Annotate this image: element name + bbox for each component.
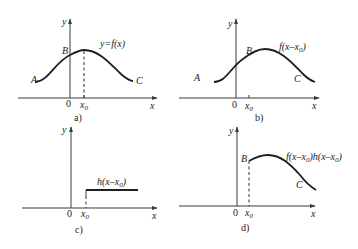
y-axis-label: y: [61, 124, 67, 135]
point-a-label: A: [30, 74, 38, 85]
point-a-label: A: [193, 72, 201, 83]
point-b-label: B: [241, 153, 247, 164]
panel-c: y x 0 x0 h(x–x0) c): [22, 124, 157, 236]
curve-label: h(x–x0): [97, 176, 127, 189]
x-axis-label: x: [149, 100, 155, 111]
figure-canvas: y x 0 x0 A B C y=f(x) a) y x 0 x0 A B C …: [0, 0, 358, 249]
y-axis-label: y: [227, 18, 233, 29]
curve-label: f(x–x0): [279, 41, 307, 54]
x0-label: x0: [244, 100, 253, 113]
y-axis-label: y: [228, 125, 234, 136]
origin-label: 0: [232, 99, 237, 110]
panel-caption: a): [74, 112, 82, 124]
point-c-label: C: [296, 179, 303, 190]
curve-label: y=f(x): [99, 38, 126, 50]
point-b-label: B: [246, 45, 252, 56]
curve-label: f(x–x0)h(x–x0): [286, 151, 343, 164]
x-axis-label: x: [311, 100, 317, 111]
panel-caption: c): [75, 224, 83, 236]
origin-label: 0: [66, 98, 71, 109]
x0-label: x0: [79, 99, 88, 112]
panel-caption: d): [241, 222, 249, 234]
panel-caption: b): [255, 112, 263, 124]
x-axis-label: x: [310, 208, 316, 219]
curve-f-x: [35, 50, 133, 82]
origin-label: 0: [233, 207, 238, 218]
x-axis-label: x: [151, 210, 157, 221]
panel-d: y x 0 x0 B C f(x–x0)h(x–x0) d): [179, 125, 343, 234]
point-b-label: B: [62, 45, 68, 56]
y-axis-label: y: [61, 16, 67, 27]
x0-label: x0: [244, 207, 253, 220]
point-c-label: C: [294, 73, 301, 84]
x0-label: x0: [80, 208, 89, 221]
point-c-label: C: [136, 75, 143, 86]
panel-a: y x 0 x0 A B C y=f(x) a): [18, 16, 157, 124]
origin-label: 0: [67, 208, 72, 219]
panel-b: y x 0 x0 A B C f(x–x0) b): [179, 18, 319, 124]
